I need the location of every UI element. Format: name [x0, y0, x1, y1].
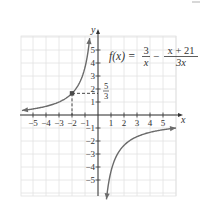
x-tick-label: 3 — [135, 118, 140, 128]
y-tick-label: −2 — [85, 136, 95, 146]
function-lhs: f(x) = — [109, 50, 136, 63]
x-tick-label: 5 — [161, 118, 166, 128]
minus-operator: − — [153, 50, 159, 62]
x-axis-label: x — [180, 114, 186, 125]
term1-numerator: 3 — [143, 45, 148, 56]
fraction-denominator: 3 — [104, 91, 108, 101]
x-tick-label: −2 — [67, 118, 77, 128]
point-markers — [70, 91, 74, 95]
x-tick-label: −4 — [41, 118, 51, 128]
labels: y x f(x) = 3 x − x + 21 3x 5 3 — [90, 24, 198, 125]
x-tick-label: 1 — [109, 118, 114, 128]
curve-left-branch — [22, 38, 90, 110]
y-tick-label: 5 — [91, 45, 96, 55]
y-tick-label: 4 — [91, 58, 96, 68]
y-tick-label: 2 — [91, 84, 96, 94]
y-axis-label: y — [90, 24, 96, 35]
y-axis-arrow-icon — [96, 29, 100, 34]
y-tick-label: −1 — [85, 123, 95, 133]
point-marker — [70, 91, 74, 95]
y-tick-label: 3 — [91, 71, 96, 81]
term2-denominator: 3x — [175, 57, 186, 68]
x-tick-label: 4 — [148, 118, 153, 128]
term2-numerator: x + 21 — [168, 45, 195, 56]
y-tick-label: −4 — [85, 162, 95, 172]
term1-denominator: x — [143, 57, 149, 68]
y-tick-label: 1 — [91, 97, 96, 107]
x-tick-label: −3 — [54, 118, 64, 128]
y-tick-label: −5 — [85, 175, 95, 185]
fraction-numerator: 5 — [104, 81, 108, 91]
x-tick-label: 2 — [122, 118, 127, 128]
x-tick-label: −5 — [28, 118, 38, 128]
curve-right-branch — [106, 128, 176, 199]
y-tick-label: −3 — [85, 149, 95, 159]
point-y-label: 5 3 — [103, 81, 109, 101]
function-graph: −5−4−3−2−11234554321−1−2−3−4−5 y x f(x) … — [0, 0, 202, 210]
